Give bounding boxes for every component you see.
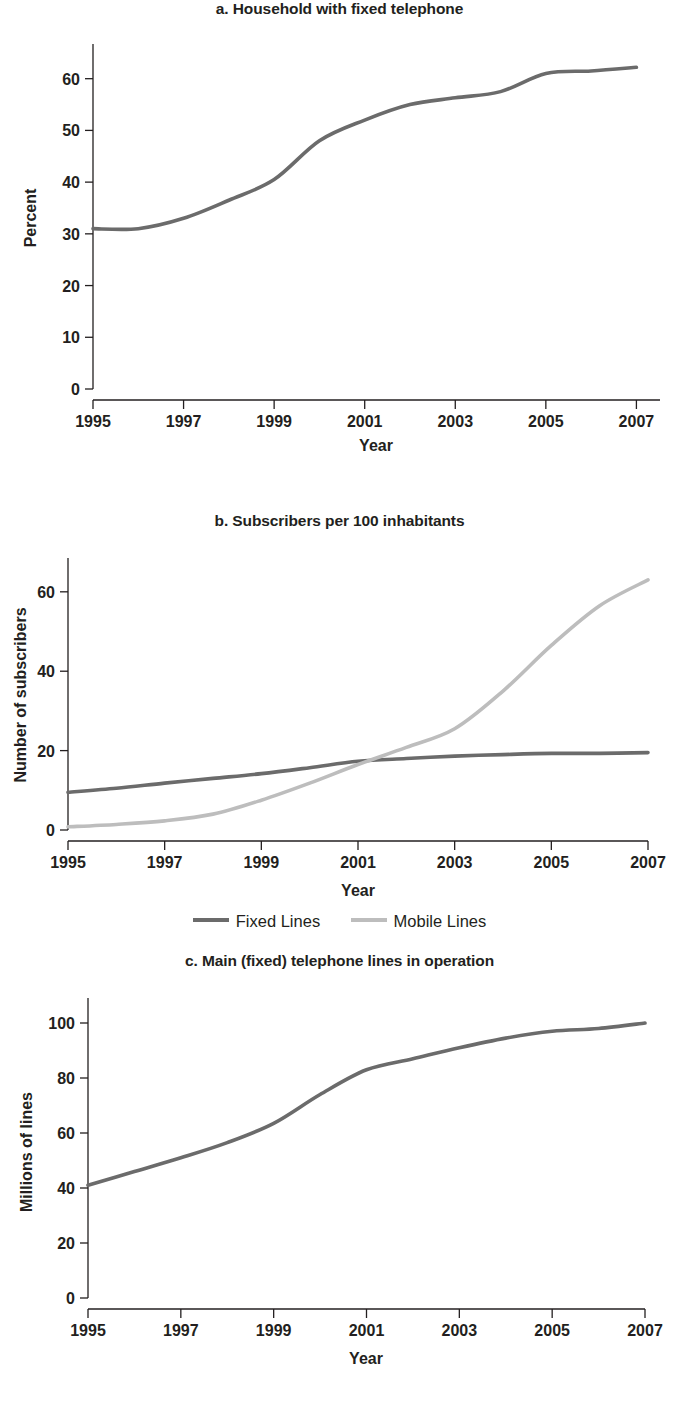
series-line [68, 753, 648, 793]
legend-label-mobile-lines: Mobile Lines [394, 912, 487, 931]
x-tick-label: 1995 [70, 1322, 106, 1339]
x-tick-label: 1997 [166, 413, 202, 430]
panel-b-plot: 0204060 1995199719992001200320052007 Yea… [0, 530, 679, 910]
panel-c-y-axis-title: Millions of lines [18, 1092, 35, 1212]
y-tick-label: 0 [71, 381, 80, 398]
panel-c-svg: 020406080100 199519971999200120032005200… [0, 970, 679, 1400]
x-tick-label: 2001 [349, 1322, 385, 1339]
x-tick-label: 1995 [75, 413, 111, 430]
x-tick-label: 2003 [437, 413, 473, 430]
x-tick-label: 2007 [627, 1322, 663, 1339]
y-tick-label: 40 [37, 663, 55, 680]
y-tick-label: 60 [37, 584, 55, 601]
panel-b-series [68, 580, 648, 827]
x-tick-label: 2001 [340, 854, 376, 871]
y-tick-label: 100 [48, 1015, 75, 1032]
legend-item-fixed-lines: Fixed Lines [193, 912, 320, 931]
panel-a-series [93, 67, 636, 229]
y-tick-label: 20 [37, 743, 55, 760]
x-tick-label: 2003 [437, 854, 473, 871]
panel-a-title: a. Household with fixed telephone [0, 0, 679, 18]
panel-b: b. Subscribers per 100 inhabitants 02040… [0, 512, 679, 931]
panel-a-svg: 0102030405060 19951997199920012003200520… [0, 18, 679, 463]
panel-c-series [88, 1023, 645, 1185]
panel-c-x-ticks: 1995199719992001200320052007 [70, 1309, 663, 1339]
panel-c-x-axis-title: Year [349, 1350, 383, 1367]
x-tick-label: 1997 [147, 854, 183, 871]
panel-a-plot: 0102030405060 19951997199920012003200520… [0, 18, 679, 463]
legend-swatch-mobile-lines [351, 918, 387, 922]
x-tick-label: 2005 [534, 854, 570, 871]
x-tick-label: 1999 [244, 854, 280, 871]
x-tick-label: 2007 [619, 413, 655, 430]
panel-b-svg: 0204060 1995199719992001200320052007 Yea… [0, 530, 679, 910]
panel-b-title: b. Subscribers per 100 inhabitants [0, 512, 679, 530]
panel-a-y-axis-title: Percent [22, 188, 39, 247]
panel-b-legend: Fixed Lines Mobile Lines [0, 912, 679, 931]
panel-b-y-ticks: 0204060 [37, 584, 68, 839]
y-tick-label: 40 [57, 1180, 75, 1197]
x-tick-label: 1999 [256, 1322, 292, 1339]
legend-item-mobile-lines: Mobile Lines [351, 912, 487, 931]
y-tick-label: 30 [62, 226, 80, 243]
panel-a-y-ticks: 0102030405060 [62, 71, 93, 398]
panel-c: c. Main (fixed) telephone lines in opera… [0, 952, 679, 1400]
y-tick-label: 50 [62, 122, 80, 139]
panel-c-title: c. Main (fixed) telephone lines in opera… [0, 952, 679, 970]
y-tick-label: 80 [57, 1070, 75, 1087]
panel-c-y-ticks: 020406080100 [48, 1015, 88, 1307]
panel-a-x-ticks: 1995199719992001200320052007 [75, 400, 654, 430]
x-tick-label: 2007 [630, 854, 666, 871]
y-tick-label: 60 [62, 71, 80, 88]
panel-b-y-axis-title: Number of subscribers [12, 607, 29, 782]
panel-a: a. Household with fixed telephone 010203… [0, 0, 679, 463]
panel-b-x-axis-title: Year [341, 882, 375, 899]
x-tick-label: 1995 [50, 854, 86, 871]
x-tick-label: 2001 [347, 413, 383, 430]
y-tick-label: 40 [62, 174, 80, 191]
x-tick-label: 2003 [442, 1322, 478, 1339]
legend-label-fixed-lines: Fixed Lines [236, 912, 320, 931]
legend-swatch-fixed-lines [193, 918, 229, 922]
x-tick-label: 2005 [528, 413, 564, 430]
y-tick-label: 20 [57, 1235, 75, 1252]
y-tick-label: 0 [46, 822, 55, 839]
panel-b-x-ticks: 1995199719992001200320052007 [50, 841, 666, 871]
x-tick-label: 1997 [163, 1322, 199, 1339]
series-line [68, 580, 648, 827]
y-tick-label: 0 [66, 1290, 75, 1307]
y-tick-label: 60 [57, 1125, 75, 1142]
y-tick-label: 20 [62, 278, 80, 295]
panel-c-plot: 020406080100 199519971999200120032005200… [0, 970, 679, 1400]
x-tick-label: 2005 [534, 1322, 570, 1339]
series-line [88, 1023, 645, 1185]
x-tick-label: 1999 [256, 413, 292, 430]
series-line [93, 67, 636, 229]
panel-a-x-axis-title: Year [359, 437, 393, 454]
y-tick-label: 10 [62, 329, 80, 346]
